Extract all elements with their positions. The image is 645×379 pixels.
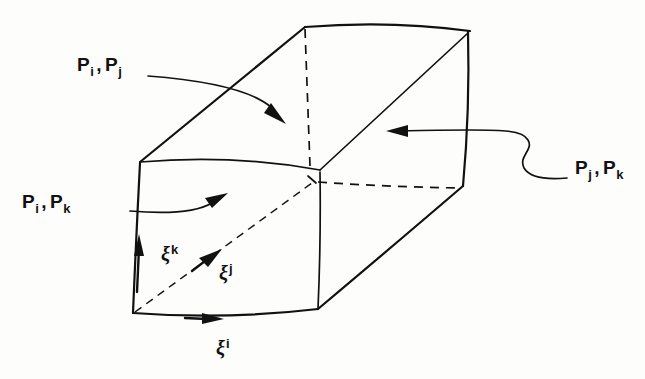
leader-arrow-face-ij [264,103,286,124]
label-face-jk: Pj,Pk [575,158,624,181]
axis-label-xi-k-symbol: ξ [161,243,170,265]
label-face-ij-sub1: i [90,64,94,79]
hidden-corner-tick [308,176,316,183]
label-face-ik-base2: P [50,191,63,212]
axis-label-xi-i-symbol: ξ [216,337,225,359]
hidden-edge-vertical-back [305,29,310,166]
axis-label-xi-j-symbol: ξ [219,262,228,284]
label-face-jk-sub1: j [588,167,592,182]
label-face-ij-sub2: j [118,64,122,79]
figure-root: Pi,Pj Pi,Pk Pj,Pk ξk ξj ξi [0,0,645,379]
axis-label-xi-i: ξi [216,337,230,358]
axis-label-xi-i-superscript: i [226,336,230,351]
leader-arrow-face-jk [386,125,408,137]
axis-label-xi-k-superscript: k [171,242,178,257]
edge-diagonal-top-right [320,33,468,170]
edge-bottom-front [133,309,318,316]
label-face-ik: Pi,Pk [22,192,71,215]
label-face-ik-base1: P [22,191,35,212]
label-face-jk-comma: , [594,157,600,178]
axis-label-xi-k: ξk [161,243,178,264]
edge-top-left-slant [140,27,305,162]
label-face-ij: Pi,Pj [77,55,122,78]
axis-label-xi-j-superscript: j [229,261,233,276]
label-face-jk-sub2: k [616,167,624,182]
axis-arrow-xi-j-shaft [192,261,205,271]
leader-line-face-jk [404,130,567,179]
label-face-ij-comma: , [96,54,102,75]
axis-label-xi-j: ξj [219,262,233,283]
label-face-ij-base2: P [105,54,118,75]
label-face-jk-base2: P [603,157,616,178]
label-face-ik-sub1: i [35,201,39,216]
leader-line-face-ik [130,203,212,212]
edge-right-vertical [463,31,468,186]
leader-line-face-ij [148,76,272,108]
edge-front-center-vertical [318,172,320,309]
hidden-edge-horizontal-back [318,182,461,188]
label-face-ik-comma: , [41,191,47,212]
edge-bottom-right-slant [318,186,463,309]
label-face-ik-sub2: k [63,201,71,216]
edge-top-back [305,24,470,31]
edge-top-front [140,159,320,170]
label-face-jk-base1: P [575,157,588,178]
label-face-ij-base1: P [77,54,90,75]
